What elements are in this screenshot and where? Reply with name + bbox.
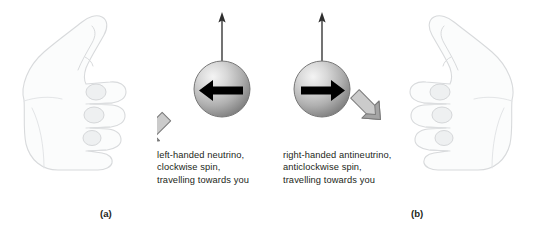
caption-left-handed-neutrino: left-handed neutrino, clockwise spin, tr… [157,149,281,186]
panel-label-b: (b) [411,208,423,219]
caption-right-handed-antineutrino: right-handed antineutrino, anticlockwise… [283,149,419,186]
neutrino-helicity-figure: left-handed neutrino, clockwise spin, tr… [0,0,534,231]
panel-label-a: (a) [100,208,112,219]
momentum-arrow-down-right [346,85,387,127]
neutrino-diagram-right [257,8,387,158]
right-hand-illustration [394,4,530,172]
momentum-arrow-down-left [157,108,175,150]
left-hand-illustration [6,4,142,172]
